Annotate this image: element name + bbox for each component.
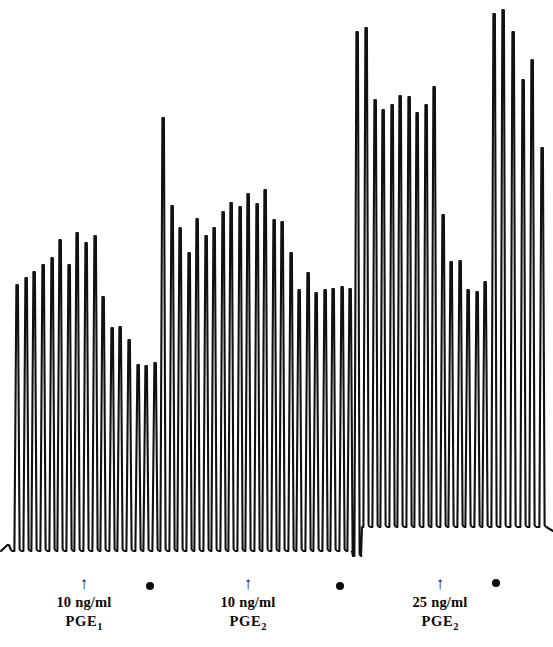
trace-line: [1, 10, 553, 556]
contraction-trace: [0, 0, 553, 647]
recording-figure: ↑10 ng/mlPGE1↑10 ng/mlPGE2↑25 ng/mlPGE2: [0, 0, 553, 647]
trace-paths: [1, 10, 553, 556]
